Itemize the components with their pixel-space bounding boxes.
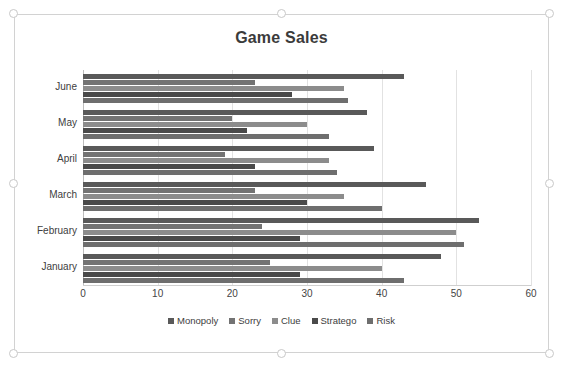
bar-group-april	[83, 146, 531, 175]
bar-monopoly-april[interactable]	[83, 146, 374, 151]
plot-area[interactable]	[83, 70, 531, 286]
legend-swatch-icon	[168, 318, 174, 324]
bar-clue-february[interactable]	[83, 230, 456, 235]
resize-handle-bottom-center[interactable]	[277, 349, 286, 358]
bar-monopoly-june[interactable]	[83, 74, 404, 79]
legend-label: Stratego	[321, 315, 357, 326]
bar-sorry-january[interactable]	[83, 260, 270, 265]
bar-risk-may[interactable]	[83, 134, 329, 139]
legend-item-clue[interactable]: Clue	[272, 315, 301, 326]
bar-monopoly-january[interactable]	[83, 254, 441, 259]
value-tick-0: 0	[80, 288, 86, 299]
bar-row	[83, 194, 531, 199]
bar-group-may	[83, 110, 531, 139]
bar-row	[83, 218, 531, 223]
bar-row	[83, 266, 531, 271]
bar-sorry-june[interactable]	[83, 80, 255, 85]
resize-handle-bottom-right[interactable]	[545, 349, 554, 358]
bar-row	[83, 254, 531, 259]
category-label-may: May	[21, 117, 77, 128]
bar-clue-march[interactable]	[83, 194, 344, 199]
bar-stratego-may[interactable]	[83, 128, 247, 133]
bar-row	[83, 230, 531, 235]
bar-row	[83, 170, 531, 175]
category-label-june: June	[21, 81, 77, 92]
bar-monopoly-march[interactable]	[83, 182, 426, 187]
bar-stratego-march[interactable]	[83, 200, 307, 205]
bar-risk-march[interactable]	[83, 206, 382, 211]
bar-row	[83, 146, 531, 151]
bar-sorry-february[interactable]	[83, 224, 262, 229]
resize-handle-top-left[interactable]	[9, 9, 18, 18]
bar-risk-june[interactable]	[83, 98, 348, 103]
chart-legend[interactable]: MonopolySorryClueStrategoRisk	[15, 315, 548, 326]
bar-sorry-april[interactable]	[83, 152, 225, 157]
bar-row	[83, 158, 531, 163]
bar-risk-january[interactable]	[83, 278, 404, 283]
value-tick-10: 10	[152, 288, 163, 299]
bar-group-january	[83, 254, 531, 283]
bar-clue-april[interactable]	[83, 158, 329, 163]
legend-item-stratego[interactable]: Stratego	[312, 315, 357, 326]
category-label-april: April	[21, 153, 77, 164]
legend-swatch-icon	[367, 318, 373, 324]
gridline-60	[531, 70, 532, 286]
chart-title[interactable]: Game Sales	[15, 29, 548, 47]
bar-monopoly-february[interactable]	[83, 218, 479, 223]
bar-row	[83, 74, 531, 79]
bar-clue-january[interactable]	[83, 266, 382, 271]
bar-row	[83, 206, 531, 211]
value-tick-30: 30	[301, 288, 312, 299]
legend-swatch-icon	[272, 318, 278, 324]
legend-swatch-icon	[229, 318, 235, 324]
bar-sorry-may[interactable]	[83, 116, 232, 121]
resize-handle-top-right[interactable]	[545, 9, 554, 18]
bar-stratego-february[interactable]	[83, 236, 300, 241]
bar-row	[83, 260, 531, 265]
resize-handle-top-center[interactable]	[277, 9, 286, 18]
legend-item-risk[interactable]: Risk	[367, 315, 394, 326]
bar-group-february	[83, 218, 531, 247]
legend-label: Clue	[281, 315, 301, 326]
chart-object[interactable]: Game Sales JuneMayAprilMarchFebruaryJanu…	[14, 14, 549, 353]
legend-label: Risk	[376, 315, 394, 326]
bar-row	[83, 110, 531, 115]
bar-row	[83, 224, 531, 229]
legend-item-sorry[interactable]: Sorry	[229, 315, 261, 326]
bar-row	[83, 122, 531, 127]
bar-clue-may[interactable]	[83, 122, 307, 127]
bar-monopoly-may[interactable]	[83, 110, 367, 115]
bar-row	[83, 182, 531, 187]
legend-item-monopoly[interactable]: Monopoly	[168, 315, 218, 326]
bar-risk-february[interactable]	[83, 242, 464, 247]
bar-row	[83, 80, 531, 85]
value-tick-60: 60	[525, 288, 536, 299]
value-tick-20: 20	[227, 288, 238, 299]
category-label-march: March	[21, 189, 77, 200]
bar-row	[83, 278, 531, 283]
legend-label: Monopoly	[177, 315, 218, 326]
value-tick-40: 40	[376, 288, 387, 299]
bar-row	[83, 272, 531, 277]
resize-handle-middle-left[interactable]	[9, 179, 18, 188]
bar-stratego-june[interactable]	[83, 92, 292, 97]
bar-group-june	[83, 74, 531, 103]
bar-row	[83, 98, 531, 103]
bar-sorry-march[interactable]	[83, 188, 255, 193]
bar-group-march	[83, 182, 531, 211]
resize-handle-middle-right[interactable]	[545, 179, 554, 188]
chart-inner: Game Sales JuneMayAprilMarchFebruaryJanu…	[15, 15, 548, 352]
bar-stratego-january[interactable]	[83, 272, 300, 277]
category-axis[interactable]: JuneMayAprilMarchFebruaryJanuary	[15, 70, 77, 286]
legend-label: Sorry	[238, 315, 261, 326]
bar-risk-april[interactable]	[83, 170, 337, 175]
category-axis-line	[83, 285, 531, 286]
category-label-january: January	[21, 261, 77, 272]
bar-row	[83, 128, 531, 133]
bar-stratego-april[interactable]	[83, 164, 255, 169]
value-axis[interactable]: 0102030405060	[83, 288, 531, 306]
resize-handle-bottom-left[interactable]	[9, 349, 18, 358]
bar-clue-june[interactable]	[83, 86, 344, 91]
bar-row	[83, 242, 531, 247]
bar-row	[83, 152, 531, 157]
